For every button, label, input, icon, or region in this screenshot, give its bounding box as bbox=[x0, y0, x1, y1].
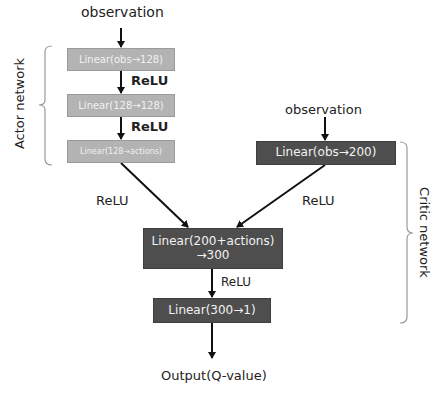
critic-final-layer-label: Linear(300→1) bbox=[168, 304, 255, 318]
critic-bracket bbox=[400, 142, 413, 323]
critic-obs-relu: ReLU bbox=[302, 193, 335, 208]
actor-layer-3-label: Linear(128→actions) bbox=[80, 147, 162, 156]
critic-combined-layer-line2: →300 bbox=[197, 249, 230, 263]
actor-layer-2: Linear(128→128) bbox=[67, 94, 175, 117]
critic-combined-relu: ReLU bbox=[221, 275, 251, 289]
actor-output-relu: ReLU bbox=[96, 193, 129, 208]
output-q-value-label: Output(Q-value) bbox=[161, 368, 267, 383]
critic-observation-label: observation bbox=[285, 102, 362, 117]
actor-layer-3: Linear(128→actions) bbox=[67, 140, 175, 163]
actor-bracket bbox=[39, 46, 52, 165]
actor-observation-label: observation bbox=[81, 4, 164, 20]
actor-layer-2-label: Linear(128→128) bbox=[78, 100, 163, 112]
actor-layer-1: Linear(obs→128) bbox=[67, 48, 175, 71]
critic-obs-layer: Linear(obs→200) bbox=[256, 141, 396, 165]
critic-final-layer: Linear(300→1) bbox=[153, 298, 271, 323]
critic-combined-layer: Linear(200+actions) →300 bbox=[143, 228, 283, 269]
critic-obs-layer-label: Linear(obs→200) bbox=[276, 146, 377, 160]
critic-network-label: Critic network bbox=[417, 185, 432, 281]
actor-relu-1: ReLU bbox=[131, 73, 168, 88]
actor-network-label: Actor network bbox=[12, 57, 27, 151]
critic-combined-layer-line1: Linear(200+actions) bbox=[152, 235, 275, 249]
actor-relu-2: ReLU bbox=[131, 119, 168, 134]
actor-layer-1-label: Linear(obs→128) bbox=[79, 54, 163, 66]
